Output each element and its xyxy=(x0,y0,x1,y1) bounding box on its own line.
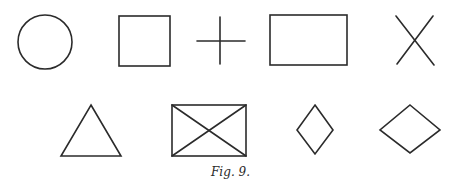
square-shape xyxy=(119,16,170,66)
figure-canvas xyxy=(0,0,461,185)
plus-shape xyxy=(197,17,245,64)
x-cross-shape xyxy=(396,16,434,65)
wide-diamond-shape xyxy=(380,105,440,153)
triangle-shape xyxy=(61,105,121,156)
figure-caption: Fig. 9. xyxy=(0,165,461,179)
circle-shape xyxy=(18,15,72,69)
rectangle-shape xyxy=(270,15,347,65)
crossed-rectangle-shape xyxy=(172,105,246,156)
narrow-diamond-shape xyxy=(297,105,333,154)
row-1 xyxy=(18,15,434,69)
row-2 xyxy=(61,105,440,156)
